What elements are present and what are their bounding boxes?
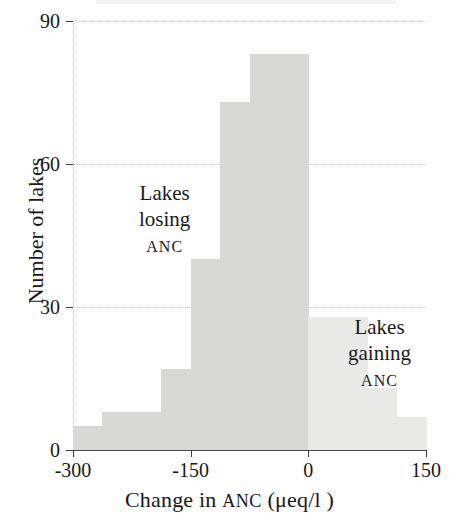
x-axis-line bbox=[73, 450, 427, 451]
x-tick-label--150: -150 bbox=[172, 458, 209, 482]
y-tick-60 bbox=[66, 164, 73, 165]
bar-4 bbox=[191, 259, 221, 450]
bar-5 bbox=[220, 102, 250, 450]
y-tick-label-90: 90 bbox=[0, 10, 60, 32]
bar-1 bbox=[102, 412, 132, 450]
histogram-figure: -300-1500150 0306090 Lakes losing ANC La… bbox=[0, 0, 459, 524]
gridline-y-90 bbox=[73, 21, 426, 22]
bar-7 bbox=[279, 54, 309, 450]
x-axis-title-post: (μeq/l ) bbox=[262, 487, 334, 512]
x-tick--150 bbox=[191, 450, 192, 457]
bar-0 bbox=[73, 426, 103, 450]
annotation-losing-line2: losing bbox=[139, 207, 190, 231]
annotation-lakes-losing: Lakes losing ANC bbox=[139, 180, 190, 260]
x-tick-0 bbox=[308, 450, 309, 457]
annotation-gaining-line1: Lakes bbox=[354, 315, 404, 339]
annotation-losing-line1: Lakes bbox=[140, 181, 190, 205]
x-tick-label-0: 0 bbox=[303, 458, 313, 482]
x-tick-label-150: 150 bbox=[411, 458, 441, 482]
y-axis-title: Number of lakes bbox=[23, 31, 49, 431]
y-tick-label-0: 0 bbox=[0, 439, 60, 461]
annotation-gaining-line2: gaining bbox=[348, 341, 411, 365]
y-axis-line bbox=[73, 21, 74, 450]
x-axis-title: Change in ANC (μeq/l ) bbox=[0, 487, 459, 513]
annotation-losing-line3: ANC bbox=[139, 234, 190, 260]
annotation-lakes-gaining: Lakes gaining ANC bbox=[348, 314, 411, 394]
annotation-gaining-line3: ANC bbox=[348, 368, 411, 394]
bar-11 bbox=[397, 417, 427, 450]
x-axis-title-pre: Change in bbox=[125, 487, 222, 512]
y-tick-0 bbox=[66, 450, 73, 451]
bar-3 bbox=[161, 369, 191, 450]
top-edge-artifact bbox=[96, 0, 396, 4]
bar-2 bbox=[132, 412, 162, 450]
x-tick--300 bbox=[73, 450, 74, 457]
y-tick-30 bbox=[66, 307, 73, 308]
bar-6 bbox=[250, 54, 280, 450]
x-axis-title-anc: ANC bbox=[222, 491, 262, 511]
x-tick-150 bbox=[426, 450, 427, 457]
bar-10 bbox=[367, 388, 397, 450]
y-tick-90 bbox=[66, 21, 73, 22]
bar-8 bbox=[308, 317, 338, 450]
x-tick-label--300: -300 bbox=[55, 458, 92, 482]
